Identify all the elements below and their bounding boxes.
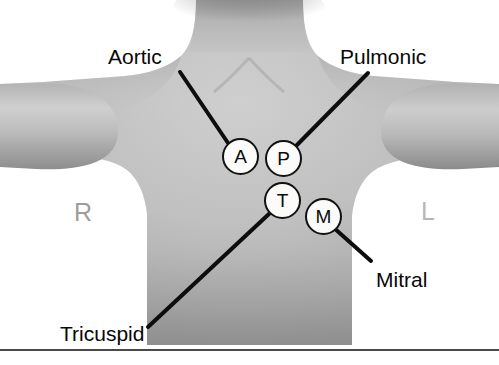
- callout-label-aortic: Aortic: [108, 46, 162, 67]
- auscultation-point-aortic-letter: A: [234, 147, 247, 166]
- side-marker-right: R: [74, 200, 92, 225]
- auscultation-point-pulmonic[interactable]: P: [265, 140, 302, 177]
- callout-label-pulmonic: Pulmonic: [340, 46, 426, 67]
- baseline-divider: [0, 349, 499, 351]
- auscultation-point-aortic[interactable]: A: [222, 138, 259, 175]
- auscultation-point-pulmonic-letter: P: [277, 149, 290, 168]
- auscultation-diagram: A P T M Aortic Pulmonic Tricuspid Mitral…: [0, 0, 499, 365]
- side-marker-left: L: [421, 199, 435, 224]
- auscultation-point-tricuspid[interactable]: T: [264, 182, 301, 219]
- auscultation-point-tricuspid-letter: T: [277, 191, 289, 210]
- callout-label-tricuspid: Tricuspid: [60, 323, 144, 344]
- auscultation-point-mitral-letter: M: [316, 207, 332, 226]
- callout-label-mitral: Mitral: [376, 269, 427, 290]
- auscultation-point-mitral[interactable]: M: [305, 198, 342, 235]
